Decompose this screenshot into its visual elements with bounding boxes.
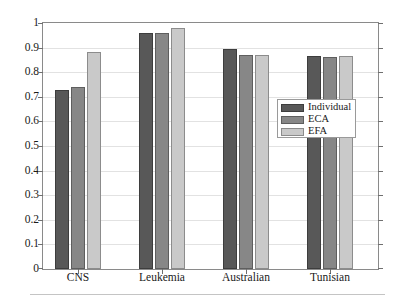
legend-swatch-icon: [281, 116, 304, 124]
plot-area: [42, 22, 379, 270]
x-tick-label-cns: CNS: [38, 272, 118, 284]
legend-label: ECA: [308, 114, 329, 125]
bar-leukemia-individual[interactable]: [139, 33, 153, 269]
x-tick-label-australian: Australian: [206, 272, 286, 284]
y-tick-label: 0.4: [0, 165, 39, 177]
y-tick-label: 0.5: [0, 140, 39, 152]
chart-legend[interactable]: Individual ECA EFA: [277, 99, 356, 138]
legend-item-efa[interactable]: EFA: [281, 126, 352, 137]
footer-divider: [30, 294, 385, 295]
bar-tunisian-eca[interactable]: [323, 57, 337, 269]
figure-canvas: 1 0.9 0.8 0.7 0.6 0.5 0.4 0.3 0.2 0.1 0: [0, 0, 401, 301]
legend-label: Individual: [308, 102, 351, 113]
legend-label: EFA: [308, 126, 327, 137]
y-tick-label: 0.8: [0, 66, 39, 78]
y-tick-label: 0.6: [0, 115, 39, 127]
legend-swatch-icon: [281, 128, 304, 136]
bar-australian-eca[interactable]: [239, 55, 253, 269]
bar-australian-individual[interactable]: [223, 49, 237, 269]
bar-australian-efa[interactable]: [255, 55, 269, 270]
bar-leukemia-eca[interactable]: [155, 33, 169, 269]
y-tick-label: 0: [0, 263, 39, 275]
y-tick-label: 0.1: [0, 238, 39, 250]
y-tick-label: 0.9: [0, 42, 39, 54]
y-tick-label: 0.2: [0, 214, 39, 226]
bar-cns-individual[interactable]: [55, 90, 69, 269]
bar-cns-efa[interactable]: [87, 52, 101, 269]
x-tick-label-tunisian: Tunisian: [290, 272, 370, 284]
legend-item-eca[interactable]: ECA: [281, 114, 352, 125]
x-tick-label-leukemia: Leukemia: [122, 272, 202, 284]
bar-cns-eca[interactable]: [71, 87, 85, 269]
y-tick-label: 0.7: [0, 91, 39, 103]
y-tick-label: 0.3: [0, 189, 39, 201]
bar-leukemia-efa[interactable]: [171, 28, 185, 269]
y-tick-label: 1: [0, 17, 39, 29]
bar-tunisian-individual[interactable]: [307, 56, 321, 269]
legend-item-individual[interactable]: Individual: [281, 102, 352, 113]
legend-swatch-icon: [281, 104, 304, 112]
bar-tunisian-efa[interactable]: [339, 56, 353, 269]
